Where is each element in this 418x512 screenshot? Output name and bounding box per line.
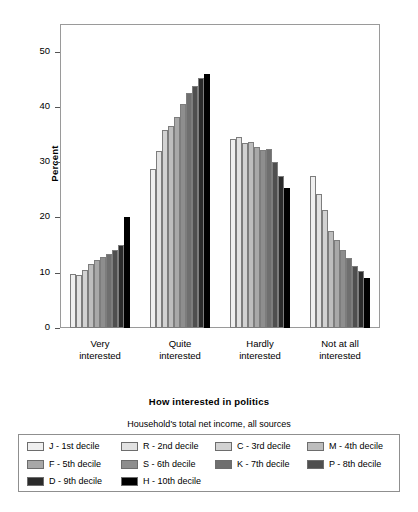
legend-item[interactable]: H - 10th decile xyxy=(121,476,201,486)
legend-item[interactable]: F - 5th decile xyxy=(27,459,101,469)
legend-label: C - 3rd decile xyxy=(237,441,291,451)
y-axis-title: Percent xyxy=(49,104,60,224)
legend-swatch xyxy=(121,460,138,469)
legend-swatch xyxy=(121,477,138,486)
bars-layer xyxy=(60,24,380,328)
x-tick-label-line: interested xyxy=(300,350,380,362)
y-tick-label: 50 xyxy=(39,45,50,56)
legend-label: R - 2nd decile xyxy=(143,441,199,451)
bar xyxy=(364,278,370,328)
legend-swatch xyxy=(27,442,44,451)
y-tick-label: 30 xyxy=(39,155,50,166)
legend-label: J - 1st decile xyxy=(49,441,100,451)
legend-item[interactable]: K - 7th decile xyxy=(215,459,290,469)
x-tick-label-line: Very xyxy=(60,338,140,350)
legend-label: P - 8th decile xyxy=(329,459,381,469)
x-tick-label-line: Hardly xyxy=(220,338,300,350)
legend-swatch xyxy=(215,460,232,469)
legend-label: F - 5th decile xyxy=(49,459,101,469)
y-tick: 20 xyxy=(0,217,60,218)
legend-swatch xyxy=(27,477,44,486)
legend-item[interactable]: J - 1st decile xyxy=(27,441,100,451)
legend-item[interactable]: P - 8th decile xyxy=(307,459,381,469)
x-tick-label-line: interested xyxy=(60,350,140,362)
x-tick-label: Hardlyinterested xyxy=(220,338,300,362)
legend: J - 1st decileR - 2nd decileC - 3rd deci… xyxy=(18,434,400,492)
x-tick-label-line: interested xyxy=(220,350,300,362)
legend-item[interactable]: M - 4th decile xyxy=(307,441,383,451)
legend-swatch xyxy=(121,442,138,451)
y-tick-label: 10 xyxy=(39,266,50,277)
y-tick-mark xyxy=(55,328,60,329)
legend-item[interactable]: R - 2nd decile xyxy=(121,441,199,451)
y-tick-label: 0 xyxy=(45,321,50,332)
y-tick: 10 xyxy=(0,273,60,274)
legend-swatch xyxy=(307,442,324,451)
y-tick: 30 xyxy=(0,162,60,163)
legend-title: Household's total net income, all source… xyxy=(0,419,418,429)
legend-swatch xyxy=(215,442,232,451)
x-tick-label-line: interested xyxy=(140,350,220,362)
legend-swatch xyxy=(27,460,44,469)
bar xyxy=(124,217,130,328)
chart-root: Percent 01020304050 VeryinterestedQuitei… xyxy=(0,0,418,512)
y-tick: 50 xyxy=(0,52,60,53)
legend-label: K - 7th decile xyxy=(237,459,290,469)
bar xyxy=(204,74,210,328)
y-tick: 40 xyxy=(0,107,60,108)
legend-item[interactable]: C - 3rd decile xyxy=(215,441,291,451)
x-tick-label-line: Quite xyxy=(140,338,220,350)
legend-label: H - 10th decile xyxy=(143,476,201,486)
y-tick: 0 xyxy=(0,328,60,329)
x-tick-label: Veryinterested xyxy=(60,338,140,362)
legend-item[interactable]: S - 6th decile xyxy=(121,459,196,469)
bar xyxy=(284,188,290,328)
x-tick-label: Quiteinterested xyxy=(140,338,220,362)
legend-label: S - 6th decile xyxy=(143,459,196,469)
x-tick-label-line: Not at all xyxy=(300,338,380,350)
legend-swatch xyxy=(307,460,324,469)
y-tick-label: 40 xyxy=(39,100,50,111)
x-tick-label: Not at allinterested xyxy=(300,338,380,362)
legend-label: M - 4th decile xyxy=(329,441,383,451)
y-tick-label: 20 xyxy=(39,210,50,221)
x-axis-title: How interested in politics xyxy=(0,396,418,407)
legend-label: D - 9th decile xyxy=(49,476,102,486)
legend-item[interactable]: D - 9th decile xyxy=(27,476,102,486)
